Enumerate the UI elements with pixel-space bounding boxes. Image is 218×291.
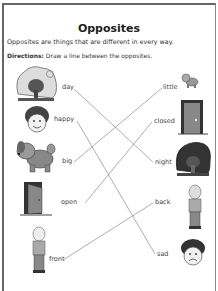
small-dog-picture xyxy=(180,72,200,90)
word-sad: sad xyxy=(157,250,169,258)
word-day: day xyxy=(62,83,74,91)
sad-face-picture xyxy=(180,238,206,268)
word-happy: happy xyxy=(54,115,74,123)
closed-door-picture xyxy=(178,98,208,138)
word-closed: closed xyxy=(154,117,175,125)
happy-face-picture xyxy=(24,104,50,136)
person-back-picture xyxy=(184,184,206,230)
word-big: big xyxy=(62,157,72,165)
word-back: back xyxy=(155,198,170,206)
word-night: night xyxy=(155,158,172,166)
word-front: front xyxy=(49,255,64,263)
word-little: little xyxy=(163,83,178,91)
line-open-closed xyxy=(85,122,152,203)
open-door-picture xyxy=(20,180,54,220)
tree-night-picture xyxy=(174,140,212,180)
line-day-night xyxy=(74,89,153,162)
person-front-picture xyxy=(28,226,50,274)
line-happy-sad xyxy=(77,121,155,254)
word-open: open xyxy=(61,198,77,206)
line-big-little xyxy=(74,88,162,162)
big-dog-picture xyxy=(14,139,56,173)
line-front-back xyxy=(63,203,153,260)
tree-day-picture xyxy=(14,64,58,106)
